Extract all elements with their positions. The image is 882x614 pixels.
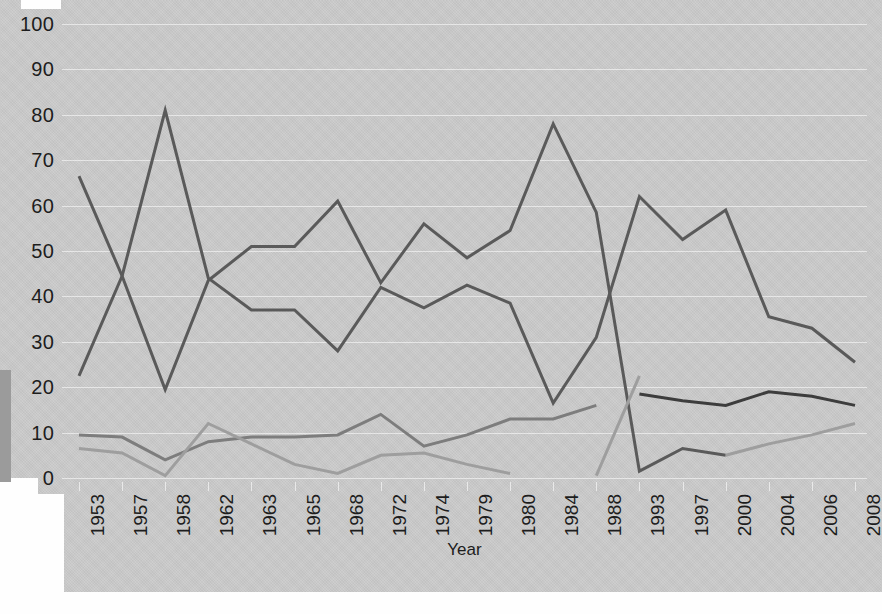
- y-tick-label: 0: [43, 467, 54, 490]
- chart-page: 1009080706050403020100 19531957195819621…: [0, 0, 882, 614]
- x-axis-title: Year: [62, 540, 867, 560]
- series-lines: [62, 24, 867, 478]
- y-tick-label: 70: [31, 149, 54, 172]
- y-tick-label: 60: [31, 194, 54, 217]
- x-tick-label: 1988: [604, 494, 626, 536]
- series-line-series-3: [79, 405, 596, 459]
- x-tick-label: 1958: [173, 494, 195, 536]
- x-tick-mark: [251, 482, 252, 491]
- x-tick-mark: [639, 482, 640, 491]
- page-margin-bottom: [0, 592, 882, 614]
- x-tick-label: 1957: [130, 494, 152, 536]
- x-tick-mark: [726, 482, 727, 491]
- x-tick-mark: [769, 482, 770, 491]
- x-tick-label: 1953: [87, 494, 109, 536]
- x-tick-label: 1965: [303, 494, 325, 536]
- x-tick-mark: [122, 482, 123, 491]
- x-tick-mark: [510, 482, 511, 491]
- x-tick-label: 1979: [475, 494, 497, 536]
- x-tick-label: 2006: [820, 494, 842, 536]
- y-tick-label: 20: [31, 376, 54, 399]
- x-tick-mark: [79, 482, 80, 491]
- x-tick-mark: [165, 482, 166, 491]
- x-tick-mark: [683, 482, 684, 491]
- x-tick-mark: [553, 482, 554, 491]
- x-tick-label: 1974: [432, 494, 454, 536]
- x-tick-label: 2000: [734, 494, 756, 536]
- x-tick-mark: [381, 482, 382, 491]
- y-tick-label: 30: [31, 330, 54, 353]
- y-tick-label: 10: [31, 421, 54, 444]
- x-tick-mark: [208, 482, 209, 491]
- x-tick-label: 1984: [561, 494, 583, 536]
- x-tick-mark: [424, 482, 425, 491]
- y-tick-label: 80: [31, 103, 54, 126]
- x-tick-label: 1962: [216, 494, 238, 536]
- x-tick-label: 1968: [346, 494, 368, 536]
- x-tick-label: 2008: [863, 494, 882, 536]
- x-tick-mark: [855, 482, 856, 491]
- y-tick-label: 100: [20, 13, 54, 36]
- y-axis: 1009080706050403020100: [0, 0, 62, 502]
- x-tick-mark: [295, 482, 296, 491]
- x-tick-label: 1963: [259, 494, 281, 536]
- x-tick-label: 1980: [518, 494, 540, 536]
- x-tick-mark: [812, 482, 813, 491]
- chart-plot-area: [62, 24, 867, 478]
- x-tick-mark: [596, 482, 597, 491]
- y-tick-label: 50: [31, 240, 54, 263]
- series-line-series-4: [726, 424, 855, 456]
- x-tick-label: 1997: [691, 494, 713, 536]
- series-line-series-5: [639, 392, 855, 406]
- x-tick-label: 1993: [647, 494, 669, 536]
- x-tick-label: 2004: [777, 494, 799, 536]
- x-tick-label: 1972: [389, 494, 411, 536]
- y-tick-label: 90: [31, 58, 54, 81]
- y-tick-label: 40: [31, 285, 54, 308]
- gridline: [62, 478, 867, 479]
- x-tick-mark: [467, 482, 468, 491]
- x-tick-mark: [338, 482, 339, 491]
